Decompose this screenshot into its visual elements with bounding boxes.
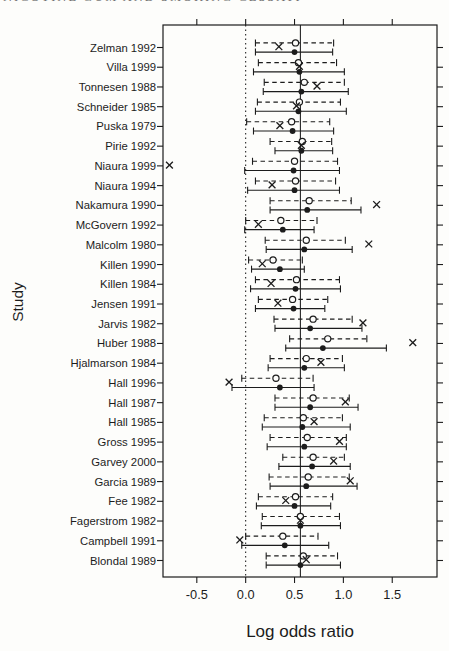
svg-text:Fee 1982: Fee 1982 (108, 495, 156, 507)
svg-text:Tonnesen 1988: Tonnesen 1988 (79, 81, 156, 93)
svg-text:Zelman 1992: Zelman 1992 (90, 42, 156, 54)
svg-text:Garvey 2000: Garvey 2000 (91, 456, 156, 468)
svg-text:Villa 1999: Villa 1999 (107, 61, 156, 73)
svg-text:Jarvis 1982: Jarvis 1982 (98, 318, 156, 330)
svg-text:Malcolm 1980: Malcolm 1980 (86, 239, 156, 251)
x-axis-title: Log odds ratio (163, 622, 437, 642)
svg-text:Schneider 1985: Schneider 1985 (77, 101, 156, 113)
svg-text:Puska 1979: Puska 1979 (96, 120, 156, 132)
y-axis-title: Study (9, 272, 27, 332)
svg-text:Jensen 1991: Jensen 1991 (91, 298, 156, 310)
svg-text:1.0: 1.0 (334, 587, 352, 602)
svg-text:0.5: 0.5 (286, 587, 304, 602)
svg-text:Killen 1990: Killen 1990 (100, 259, 156, 271)
svg-text:Blondal 1989: Blondal 1989 (90, 555, 156, 567)
svg-text:McGovern 1992: McGovern 1992 (76, 219, 156, 231)
svg-text:-0.5: -0.5 (186, 587, 208, 602)
svg-text:Hall 1996: Hall 1996 (108, 377, 156, 389)
svg-text:Niaura 1999: Niaura 1999 (94, 160, 156, 172)
svg-text:Garcia 1989: Garcia 1989 (94, 476, 156, 488)
svg-text:Hjalmarson 1984: Hjalmarson 1984 (71, 357, 156, 369)
svg-text:Hall 1987: Hall 1987 (108, 397, 156, 409)
forest-plot: -0.50.00.51.01.5Zelman 1992Villa 1999Ton… (0, 0, 449, 651)
scanned-page: NICOTINE GUM AND SMOKING CESSATION -0.50… (0, 0, 449, 651)
svg-text:Hall 1985: Hall 1985 (108, 416, 156, 428)
svg-text:Fagerstrom 1982: Fagerstrom 1982 (70, 515, 156, 527)
svg-text:1.5: 1.5 (383, 587, 401, 602)
svg-text:Gross 1995: Gross 1995 (98, 436, 156, 448)
svg-text:Campbell 1991: Campbell 1991 (80, 535, 156, 547)
svg-text:Huber 1988: Huber 1988 (97, 337, 156, 349)
svg-text:Nakamura 1990: Nakamura 1990 (76, 199, 156, 211)
svg-text:Killen 1984: Killen 1984 (100, 278, 156, 290)
svg-text:0.0: 0.0 (237, 587, 255, 602)
svg-text:Pirie 1992: Pirie 1992 (105, 140, 156, 152)
svg-text:Niaura 1994: Niaura 1994 (94, 180, 156, 192)
